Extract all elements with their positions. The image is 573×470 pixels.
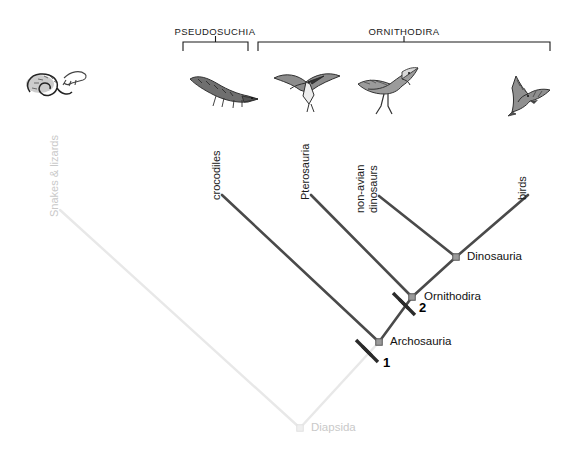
node-square-ornithodira xyxy=(409,294,416,301)
branch-diapsida-to-archosauria xyxy=(300,342,379,428)
node-label-diapsida: Diapsida xyxy=(311,421,356,433)
node-label-dinosauria: Dinosauria xyxy=(467,250,522,262)
faded-branch-group xyxy=(60,210,379,428)
node-square-archosauria xyxy=(376,339,383,346)
crocodile-illustration xyxy=(186,66,260,112)
pterosaur-illustration xyxy=(270,62,344,114)
bracket-label-ornithodira: ORNITHODIRA xyxy=(369,26,440,37)
branch-archosauria-to-crocodiles xyxy=(222,195,379,342)
bracket-pseudosuchia xyxy=(183,42,248,51)
snake-lizard-illustration xyxy=(14,58,90,110)
tip-label-pterosauria: Pterosauria xyxy=(299,144,311,200)
character-mark-number-1: 1 xyxy=(383,355,390,370)
tip-label-birds: birds xyxy=(516,176,528,200)
node-label-ornithodira: Ornithodira xyxy=(424,290,481,302)
theropod-dinosaur-illustration xyxy=(354,58,430,116)
tip-label-line-2: dinosaurs xyxy=(367,165,380,213)
branch-diapsida-to-snakes xyxy=(60,210,300,428)
node-label-archosauria: Archosauria xyxy=(390,335,451,347)
tip-label-crocodiles: crocodiles xyxy=(210,150,222,200)
tip-label-non-avian-dinosaurs: non-avian dinosaurs xyxy=(354,165,379,213)
branch-dinosauria-to-nonavian xyxy=(379,196,456,257)
bracket-label-pseudosuchia: PSEUDOSUCHIA xyxy=(175,26,256,37)
cladogram-figure: PSEUDOSUCHIA ORNITHODIRA Snakes & lizard… xyxy=(0,0,573,470)
bird-illustration xyxy=(498,70,560,118)
bracket-ornithodira xyxy=(258,42,550,51)
bracket-group xyxy=(183,36,550,51)
tip-label-snakes-lizards: Snakes & lizards xyxy=(48,135,60,217)
mark-1-bar xyxy=(362,346,378,362)
node-square-diapsida xyxy=(297,425,304,432)
branch-group xyxy=(222,195,528,342)
branch-dinosauria-to-birds xyxy=(456,195,528,257)
character-mark-number-2: 2 xyxy=(419,300,426,315)
mark-1 xyxy=(356,340,378,362)
node-square-dinosauria xyxy=(453,254,460,261)
tip-label-line-1: non-avian xyxy=(354,165,367,213)
